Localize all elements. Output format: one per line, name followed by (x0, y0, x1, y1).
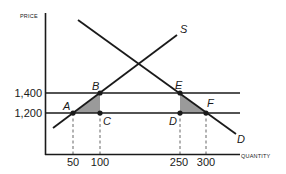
supply-label: S (180, 23, 188, 35)
demand-label: D (237, 133, 245, 145)
x-tick-300: 300 (197, 156, 215, 168)
dashed-guides (73, 113, 206, 154)
x-tick-50: 50 (67, 156, 79, 168)
point-a-label: A (62, 100, 70, 112)
point-d-label: D (169, 115, 177, 127)
y-axis-label: PRICE (20, 13, 38, 19)
point-f-label: F (207, 97, 215, 109)
point-c (97, 110, 102, 115)
x-tick-100: 100 (91, 156, 109, 168)
supply-demand-diagram: PRICE QUANTITY 1,400 1,200 50 100 250 30… (0, 0, 286, 174)
y-tick-1400: 1,400 (14, 87, 42, 99)
point-d (177, 110, 182, 115)
y-tick-1200: 1,200 (14, 107, 42, 119)
point-a (70, 110, 75, 115)
demand-curve (78, 20, 236, 134)
point-b-label: B (92, 80, 99, 92)
point-e (177, 90, 182, 95)
point-c-label: C (103, 115, 111, 127)
x-tick-250: 250 (170, 156, 188, 168)
x-axis-label: QUANTITY (241, 153, 271, 159)
point-f (203, 110, 208, 115)
point-e-label: E (175, 79, 183, 91)
